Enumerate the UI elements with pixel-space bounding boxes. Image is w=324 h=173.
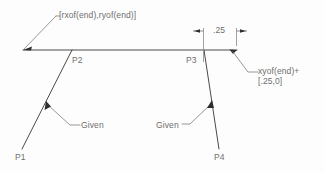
line-p1-p2 <box>22 50 72 149</box>
leader-given-right <box>182 104 211 124</box>
point-label-p3: P3 <box>186 55 197 65</box>
end-offset-label: xyof(end)+ [.25,0] <box>258 66 299 86</box>
dimension-arrow-left <box>194 29 200 32</box>
point-label-p1: P1 <box>15 152 26 162</box>
coordinate-label: [rxof(end),ryof(end)] <box>59 10 136 20</box>
leader-coordinate-label <box>24 16 56 49</box>
technical-diagram: [rxof(end),ryof(end)] .25 xyof(end)+ [.2… <box>0 0 324 173</box>
point-label-p4: P4 <box>214 152 225 162</box>
diagram-canvas <box>0 0 324 173</box>
point-label-p2: P2 <box>72 55 83 65</box>
dimension-arrow-right <box>240 29 246 32</box>
leader-given-left <box>48 105 80 125</box>
leader-end-offset-label <box>233 52 258 72</box>
given-right-arrowhead <box>207 100 214 108</box>
annotation-given-right: Given <box>156 120 179 130</box>
line-p3-p4 <box>204 50 219 149</box>
dimension-value-label: .25 <box>213 25 225 35</box>
annotation-given-left: Given <box>81 120 104 130</box>
